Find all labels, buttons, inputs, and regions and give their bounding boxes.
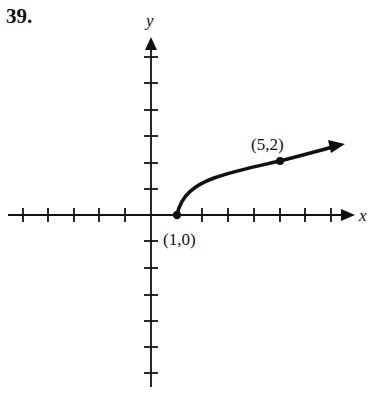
point-start-label: (1,0) — [163, 230, 196, 249]
x-axis-label: x — [358, 206, 367, 225]
function-curve — [177, 147, 333, 215]
point-start — [173, 211, 181, 219]
curve-arrow-icon — [328, 140, 345, 153]
point-mid — [276, 157, 284, 165]
point-mid-label: (5,2) — [251, 135, 284, 154]
y-axis-arrow-icon — [145, 37, 157, 50]
x-axis-arrow-icon — [341, 209, 355, 221]
y-axis — [144, 48, 158, 387]
y-axis-label: y — [144, 11, 154, 30]
graph: x y (1,0) (5,2) — [0, 0, 368, 405]
